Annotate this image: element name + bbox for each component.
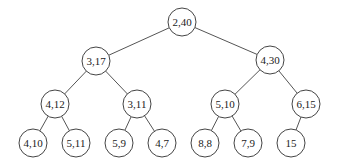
tree-node: 3,17 xyxy=(82,47,110,75)
node-label: 5,9 xyxy=(112,137,126,149)
tree-node: 4,10 xyxy=(19,129,47,157)
node-label: 3,17 xyxy=(86,55,106,67)
tree-node: 5,10 xyxy=(211,90,239,118)
tree-svg: 2,403,174,304,123,115,106,154,105,115,94… xyxy=(0,0,342,160)
tree-node: 5,9 xyxy=(105,129,133,157)
node-label: 4,7 xyxy=(155,137,169,149)
node-label: 5,11 xyxy=(67,137,86,149)
node-label: 6,15 xyxy=(296,98,316,110)
tree-node: 4,12 xyxy=(41,90,69,118)
node-label: 4,30 xyxy=(260,54,280,66)
tree-node: 4,30 xyxy=(256,46,284,74)
tree-edges xyxy=(33,22,306,143)
node-label: 8,8 xyxy=(198,137,212,149)
tree-nodes: 2,403,174,304,123,115,106,154,105,115,94… xyxy=(19,8,320,157)
node-label: 15 xyxy=(286,137,298,149)
tree-node: 6,15 xyxy=(292,90,320,118)
node-label: 4,10 xyxy=(23,137,43,149)
node-label: 7,9 xyxy=(241,137,255,149)
node-label: 3,11 xyxy=(128,98,147,110)
tree-node: 5,11 xyxy=(62,129,90,157)
tree-diagram: 2,403,174,304,123,115,106,154,105,115,94… xyxy=(0,0,342,160)
tree-node: 3,11 xyxy=(123,90,151,118)
node-label: 2,40 xyxy=(172,16,192,28)
tree-node: 15 xyxy=(277,129,305,157)
tree-node: 2,40 xyxy=(168,8,196,36)
node-label: 4,12 xyxy=(45,98,64,110)
tree-node: 4,7 xyxy=(148,129,176,157)
node-label: 5,10 xyxy=(215,98,235,110)
tree-node: 8,8 xyxy=(191,129,219,157)
tree-node: 7,9 xyxy=(234,129,262,157)
